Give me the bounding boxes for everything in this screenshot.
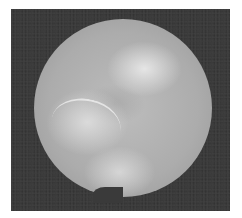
scope-notch [93, 187, 123, 203]
dark-frame [11, 9, 230, 211]
